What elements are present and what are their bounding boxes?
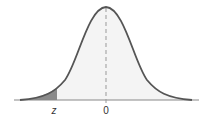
z-label: z bbox=[51, 105, 57, 116]
normal-distribution-diagram: z 0 bbox=[0, 0, 207, 133]
zero-label: 0 bbox=[103, 105, 109, 116]
shaded-left-tail bbox=[20, 88, 57, 100]
